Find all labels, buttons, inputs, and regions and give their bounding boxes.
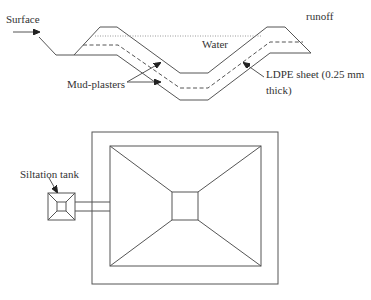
plan-view <box>48 132 278 284</box>
tank-slope-bl <box>48 211 57 220</box>
slope-line-bl <box>110 220 172 266</box>
label-mud-plasters: Mud-plasters <box>67 78 125 91</box>
tank-slope-tl <box>48 193 57 202</box>
tank-slope-br <box>66 211 75 220</box>
ground-line <box>39 37 74 55</box>
slope-line-br <box>198 220 261 266</box>
diagram-svg <box>0 0 371 300</box>
label-ldpe-sheet-thick: thick) <box>266 84 292 97</box>
pond-top-edge <box>110 146 261 266</box>
slope-line-tr <box>198 146 261 192</box>
tank-slope-tr <box>66 193 75 202</box>
label-runoff: runoff <box>306 10 333 23</box>
embankment-outer-surface <box>74 27 311 73</box>
label-ldpe-sheet: LDPE sheet (0.25 mm <box>266 68 364 81</box>
diagram-canvas: Surface runoff Water Mud-plasters LDPE s… <box>0 0 371 300</box>
slope-line-tl <box>110 146 172 192</box>
label-water: Water <box>202 38 228 51</box>
label-surface: Surface <box>6 13 40 26</box>
siltation-tank-inner <box>57 202 66 211</box>
label-siltation-tank: Siltation tank <box>20 168 79 181</box>
outer-bund <box>92 132 278 284</box>
pond-bottom <box>172 192 198 220</box>
